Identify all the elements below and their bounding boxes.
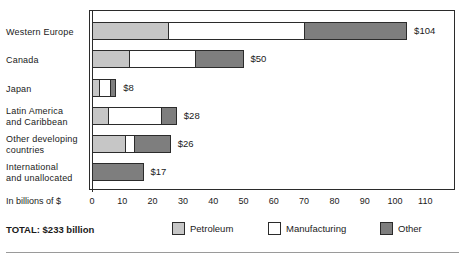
stacked-bar	[92, 135, 171, 153]
bar-value-label: $26	[178, 138, 194, 149]
bar-segment-other	[195, 51, 243, 67]
bar-segment-petroleum	[93, 136, 125, 152]
legend-swatch-manufacturing-icon	[268, 222, 281, 235]
tick-label: 50	[238, 196, 248, 206]
legend-label-petroleum: Petroleum	[190, 223, 233, 234]
stacked-bar	[92, 50, 244, 68]
bar-value-label: $17	[151, 166, 167, 177]
tick-label: 80	[329, 196, 339, 206]
legend-swatch-other-icon	[380, 222, 393, 235]
bar-segment-manufacturing	[129, 51, 195, 67]
legend-label-manufacturing: Manufacturing	[286, 223, 346, 234]
bar-segment-manufacturing	[125, 136, 134, 152]
category-label-other-developing: Other developing countries	[6, 134, 88, 155]
category-label-western-europe: Western Europe	[6, 27, 88, 38]
bar-segment-other	[110, 80, 116, 96]
bar-value-label: $104	[414, 25, 435, 36]
bar-segment-petroleum	[93, 23, 168, 39]
total-label: TOTAL: $233 billion	[6, 224, 94, 235]
tick-label: 100	[387, 196, 402, 206]
bar-segment-manufacturing	[168, 23, 303, 39]
stacked-bar	[92, 107, 177, 125]
bar-segment-petroleum	[93, 51, 129, 67]
legend: TOTAL: $233 billion Petroleum Manufactur…	[6, 222, 461, 240]
bottom-divider	[6, 252, 459, 253]
tick-label: 110	[418, 196, 432, 206]
tick-label: 0	[89, 196, 94, 206]
tick-label: 10	[117, 196, 127, 206]
tick-label: 40	[208, 196, 218, 206]
tick-label: 30	[178, 196, 188, 206]
tick-label: 70	[299, 196, 309, 206]
bar-value-label: $8	[123, 82, 134, 93]
legend-label-other: Other	[398, 223, 422, 234]
bar-segment-manufacturing	[108, 108, 161, 124]
stacked-bar	[92, 79, 116, 97]
axis-caption: In billions of $	[6, 196, 61, 206]
category-label-japan: Japan	[6, 84, 88, 95]
category-label-canada: Canada	[6, 55, 88, 66]
tick-label: 60	[269, 196, 279, 206]
bar-segment-other	[161, 108, 176, 124]
stacked-bar-chart: Western Europe Canada Japan Latin Americ…	[0, 0, 465, 263]
stacked-bar	[92, 22, 407, 40]
stacked-bar	[92, 163, 144, 181]
legend-item-petroleum: Petroleum	[172, 222, 233, 235]
legend-item-other: Other	[380, 222, 422, 235]
tick-label: 20	[148, 196, 158, 206]
tick-label: 90	[360, 196, 370, 206]
bar-segment-petroleum	[93, 108, 108, 124]
bar-value-label: $50	[251, 53, 267, 64]
category-label-latin-america: Latin America and Caribbean	[6, 106, 88, 127]
bar-segment-other	[134, 136, 169, 152]
legend-swatch-petroleum-icon	[172, 222, 185, 235]
category-label-international: International and unallocated	[6, 162, 88, 183]
bar-segment-manufacturing	[99, 80, 110, 96]
bar-value-label: $28	[184, 110, 200, 121]
bar-segment-other	[304, 23, 406, 39]
bar-segment-other	[93, 164, 143, 180]
legend-item-manufacturing: Manufacturing	[268, 222, 346, 235]
